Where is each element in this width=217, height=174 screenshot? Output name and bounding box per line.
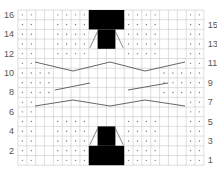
purl-dot bbox=[154, 121, 155, 122]
purl-dot bbox=[154, 14, 155, 15]
purl-dot bbox=[190, 140, 191, 141]
purl-dot bbox=[137, 140, 138, 141]
purl-dot bbox=[137, 34, 138, 35]
purl-dot bbox=[57, 121, 58, 122]
row-label: 11 bbox=[208, 58, 217, 68]
purl-dot bbox=[84, 140, 85, 141]
purl-dot bbox=[154, 53, 155, 54]
purl-dot bbox=[22, 121, 23, 122]
purl-dot bbox=[66, 14, 67, 15]
purl-dot bbox=[84, 121, 85, 122]
purl-dot bbox=[22, 63, 23, 64]
row-labels-right: 15131197531 bbox=[208, 20, 217, 166]
purl-dot bbox=[22, 72, 23, 73]
purl-dot bbox=[128, 24, 129, 25]
purl-dot bbox=[22, 14, 23, 15]
purl-dot bbox=[39, 92, 40, 93]
purl-dot bbox=[128, 121, 129, 122]
purl-dot bbox=[31, 14, 32, 15]
purl-dot bbox=[66, 150, 67, 151]
cable-lines bbox=[35, 62, 185, 106]
purl-dot bbox=[172, 82, 173, 83]
purl-dot bbox=[137, 24, 138, 25]
purl-dot bbox=[199, 14, 200, 15]
purl-dot bbox=[137, 131, 138, 132]
row-label: 15 bbox=[208, 20, 217, 30]
purl-dot bbox=[66, 24, 67, 25]
cable-line-middle-left bbox=[55, 83, 90, 90]
purl-dot bbox=[31, 131, 32, 132]
cable-line-upper-zigzag bbox=[35, 62, 185, 71]
purl-dot bbox=[57, 131, 58, 132]
purl-dot bbox=[66, 53, 67, 54]
purl-dot bbox=[199, 150, 200, 151]
cable-line-middle-right bbox=[128, 83, 168, 90]
purl-dot bbox=[137, 53, 138, 54]
purl-dot bbox=[199, 121, 200, 122]
purl-dot bbox=[163, 72, 164, 73]
purl-dot bbox=[128, 150, 129, 151]
purl-dot bbox=[190, 82, 191, 83]
purl-dot bbox=[146, 53, 147, 54]
row-label: 2 bbox=[9, 146, 14, 156]
purl-dot bbox=[199, 72, 200, 73]
purl-dot bbox=[199, 82, 200, 83]
purl-dot bbox=[31, 121, 32, 122]
purl-dot bbox=[48, 92, 49, 93]
purl-dot bbox=[75, 24, 76, 25]
purl-dot bbox=[57, 150, 58, 151]
purl-dot bbox=[199, 160, 200, 161]
row-label: 7 bbox=[208, 97, 213, 107]
row-label: 14 bbox=[4, 29, 14, 39]
purl-dot bbox=[84, 131, 85, 132]
purl-dot bbox=[57, 53, 58, 54]
purl-dot bbox=[75, 121, 76, 122]
purl-dot bbox=[22, 34, 23, 35]
purl-dot bbox=[22, 82, 23, 83]
purl-dot bbox=[31, 53, 32, 54]
purl-dot bbox=[190, 63, 191, 64]
purl-dot bbox=[57, 140, 58, 141]
purl-dot bbox=[190, 101, 191, 102]
purl-dot bbox=[154, 43, 155, 44]
no-stitch-block bbox=[98, 29, 116, 48]
purl-dot bbox=[75, 140, 76, 141]
row-label: 16 bbox=[4, 10, 14, 20]
purl-dot bbox=[48, 72, 49, 73]
purl-dot bbox=[57, 34, 58, 35]
purl-dot bbox=[57, 24, 58, 25]
row-label: 9 bbox=[208, 78, 213, 88]
purl-dot bbox=[154, 24, 155, 25]
purl-dot bbox=[199, 53, 200, 54]
purl-dot bbox=[75, 150, 76, 151]
purl-dot bbox=[154, 160, 155, 161]
no-stitch-block bbox=[89, 146, 124, 165]
knitting-chart: 161412108642 15131197531 bbox=[0, 0, 217, 174]
purl-dot bbox=[146, 150, 147, 151]
purl-dot bbox=[128, 131, 129, 132]
purl-dot bbox=[190, 160, 191, 161]
purl-dot bbox=[84, 150, 85, 151]
purl-dot bbox=[22, 140, 23, 141]
purl-dot bbox=[146, 121, 147, 122]
purl-dot bbox=[84, 53, 85, 54]
purl-dot bbox=[22, 24, 23, 25]
purl-dot bbox=[172, 92, 173, 93]
purl-dot bbox=[84, 160, 85, 161]
purl-dot bbox=[190, 43, 191, 44]
purl-dot bbox=[190, 131, 191, 132]
purl-dot bbox=[199, 92, 200, 93]
purl-dot bbox=[66, 43, 67, 44]
purl-dot bbox=[199, 63, 200, 64]
purl-dot bbox=[128, 160, 129, 161]
purl-dot bbox=[48, 82, 49, 83]
row-label: 6 bbox=[9, 107, 14, 117]
purl-dot bbox=[190, 34, 191, 35]
purl-dot bbox=[146, 43, 147, 44]
purl-dot bbox=[31, 34, 32, 35]
purl-dot bbox=[146, 140, 147, 141]
purl-dot bbox=[39, 82, 40, 83]
purl-dot bbox=[137, 160, 138, 161]
purl-dot bbox=[199, 34, 200, 35]
row-label: 12 bbox=[4, 49, 14, 59]
